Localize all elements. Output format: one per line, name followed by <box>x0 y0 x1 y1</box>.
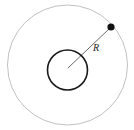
figure-container: R <box>0 0 134 130</box>
circular-orbit-diagram: R <box>0 0 134 130</box>
diagram-background <box>0 0 134 130</box>
orbiting-dot <box>107 23 114 30</box>
radius-label: R <box>92 42 99 53</box>
